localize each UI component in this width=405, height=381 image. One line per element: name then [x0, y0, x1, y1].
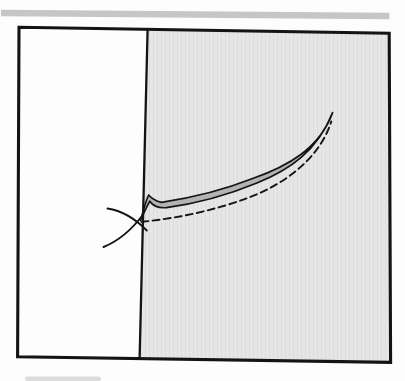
top-divider-bar [1, 10, 390, 19]
bottom-smudge [25, 377, 101, 381]
figure-canvas [0, 0, 405, 381]
diagram-svg [0, 0, 405, 381]
cross-tail-lower [104, 215, 143, 247]
shaded-region-texture [140, 30, 390, 361]
